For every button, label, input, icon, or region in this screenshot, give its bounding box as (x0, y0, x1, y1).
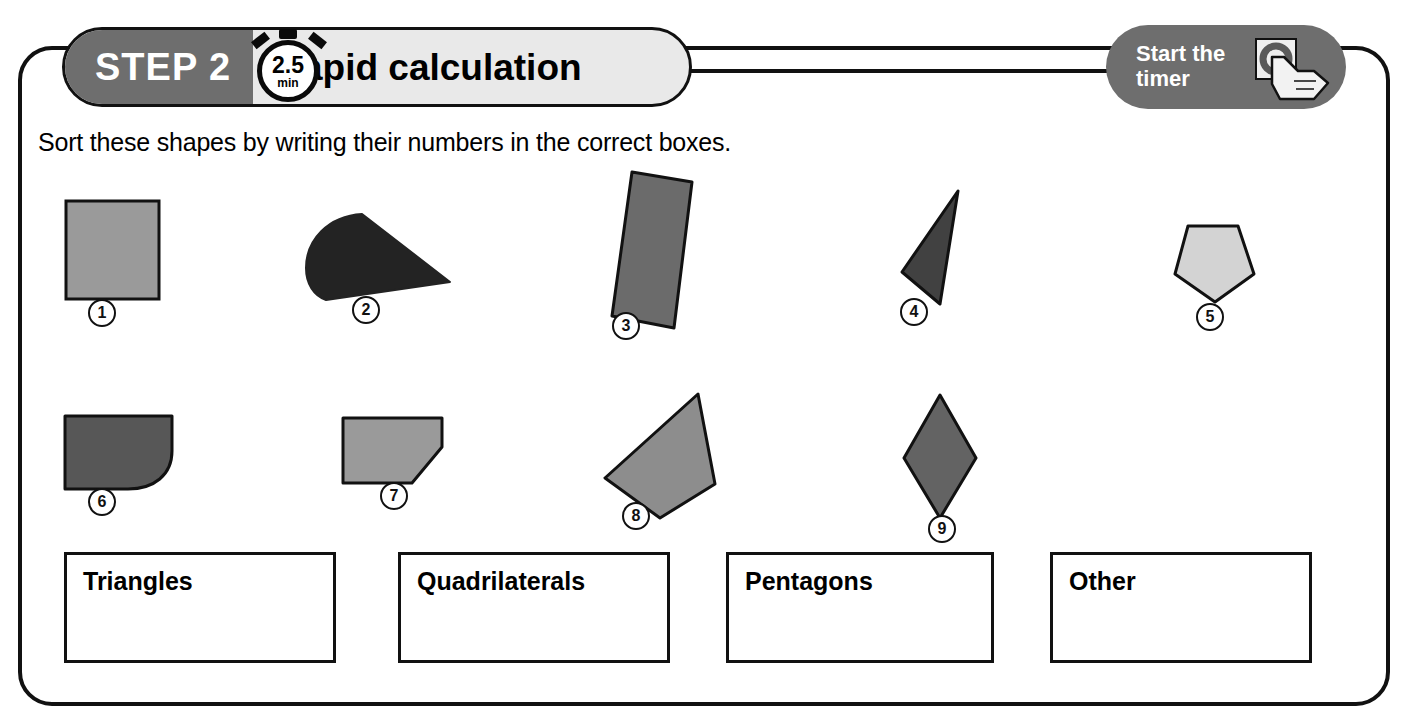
step-label: STEP 2 (95, 48, 231, 86)
step-banner: STEP 2 Rapid calculation (62, 27, 692, 107)
answer-box-quadrilaterals[interactable]: Quadrilaterals (398, 552, 670, 663)
stopwatch-icon: 2.5 min (252, 26, 326, 104)
answer-box-triangles[interactable]: Triangles (64, 552, 336, 663)
hand-pointer-icon (1254, 37, 1342, 101)
answer-box-label: Pentagons (729, 555, 991, 596)
stopwatch-ear-right-icon (308, 32, 327, 50)
step-banner-left: STEP 2 (65, 30, 253, 104)
timer-unit: min (277, 77, 298, 89)
start-timer-label-line1: Start the (1136, 42, 1266, 67)
answer-box-label: Triangles (67, 555, 333, 596)
start-timer-label-line2: timer (1136, 67, 1266, 92)
stopwatch-dial: 2.5 min (257, 40, 319, 102)
timer-value: 2.5 (272, 55, 304, 77)
answer-box-other[interactable]: Other (1050, 552, 1312, 663)
answer-box-label: Quadrilaterals (401, 555, 667, 596)
answer-box-label: Other (1053, 555, 1309, 596)
banner-connector-line (640, 69, 1152, 73)
start-timer-label: Start the timer (1106, 42, 1266, 91)
start-timer-button[interactable]: Start the timer (1106, 25, 1346, 109)
instruction-text: Sort these shapes by writing their numbe… (38, 128, 731, 157)
answer-box-pentagons[interactable]: Pentagons (726, 552, 994, 663)
stopwatch-crown-icon (279, 29, 297, 39)
